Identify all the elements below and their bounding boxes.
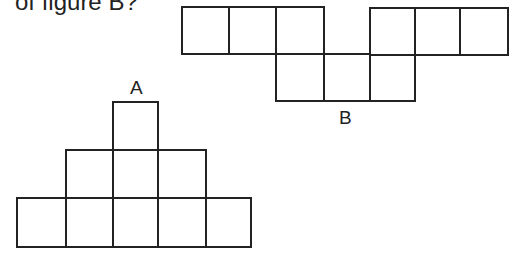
figure-b-square <box>229 7 276 54</box>
figure-b-square <box>324 54 370 101</box>
figure-a-square <box>113 102 158 150</box>
figure-a-square <box>66 198 113 247</box>
figure-b-square <box>276 7 324 54</box>
figure-b-square <box>276 54 324 101</box>
figure-a-square <box>158 150 206 198</box>
figures-canvas <box>0 0 517 254</box>
figure-b-square <box>415 8 460 55</box>
figure-a-label: A <box>130 78 143 98</box>
figure-a-square <box>17 198 66 247</box>
figure-a-square <box>158 198 206 247</box>
figure-a-square <box>113 150 158 198</box>
figure-a-square <box>66 150 113 198</box>
figure-a <box>17 102 251 247</box>
figure-b-label: B <box>339 108 352 128</box>
figure-b <box>182 7 508 101</box>
figure-a-square <box>113 198 158 247</box>
figure-b-square <box>460 8 508 55</box>
figure-a-square <box>206 198 251 247</box>
figure-b-square <box>370 8 415 55</box>
figure-b-square <box>370 55 415 101</box>
figure-b-square <box>182 7 229 54</box>
